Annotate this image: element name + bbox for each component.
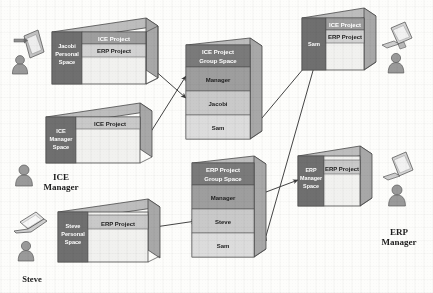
ice-manager-side-line-2: Manager: [49, 136, 73, 142]
label-erp-manager-line-2: Manager: [382, 237, 417, 247]
box-sam-personal-space[interactable]: Sam ICE Project ERP Project: [302, 8, 376, 70]
diagram-canvas: Jacobi Personal Space ICE Project ERP Pr…: [0, 0, 433, 293]
ice-manager-side-line-1: ICE: [56, 128, 66, 134]
box-ice-project-group-space[interactable]: ICE Project Group Space Manager Jacobi S…: [186, 38, 262, 139]
laptop-icon: [14, 212, 47, 233]
diagram-svg: Jacobi Personal Space ICE Project ERP Pr…: [0, 0, 433, 293]
desktop-computer-icon: [382, 22, 412, 49]
connector-steve-to-erp-group: [155, 221, 196, 227]
box-steve-personal-space[interactable]: Steve Personal Space ERP Project: [58, 199, 160, 262]
person-icon: [388, 53, 404, 73]
actor-sam[interactable]: [382, 22, 412, 73]
person-icon: [16, 165, 33, 186]
person-icon: [389, 185, 406, 206]
actor-ice-manager[interactable]: [16, 165, 33, 186]
label-ice-manager-line-1: ICE: [53, 172, 69, 182]
person-icon: [18, 241, 34, 261]
erp-group-member-manager: Manager: [211, 195, 236, 201]
connector-erp-group-to-sam: [266, 60, 316, 236]
sam-side-label: Sam: [308, 41, 320, 47]
sam-band-erp-project: ERP Project: [328, 34, 362, 40]
jacobi-band-ice-project: ICE Project: [98, 36, 130, 42]
erp-group-header-line-2: Group Space: [204, 176, 242, 182]
steve-side-line-1: Steve: [66, 223, 81, 229]
steve-band-erp-project: ERP Project: [101, 221, 135, 227]
sam-band-ice-project: ICE Project: [329, 22, 361, 28]
jacobi-side-line-1: Jacobi: [58, 43, 76, 49]
steve-side-line-3: Space: [65, 239, 81, 245]
actor-steve[interactable]: [14, 212, 47, 261]
erp-manager-side-line-3: Space: [303, 183, 319, 189]
erp-group-header-line-1: ERP Project: [206, 167, 240, 173]
ice-group-member-jacobi: Jacobi: [208, 101, 227, 107]
tablet-icon: [14, 30, 44, 58]
jacobi-band-erp-project: ERP Project: [97, 48, 131, 54]
actor-erp-manager[interactable]: [383, 152, 413, 206]
desktop-computer-icon: [383, 152, 413, 180]
ice-group-member-manager: Manager: [206, 77, 231, 83]
box-jacobi-personal-space[interactable]: Jacobi Personal Space ICE Project ERP Pr…: [52, 18, 158, 84]
connector-icemgr-to-ice-group: [152, 76, 186, 130]
label-ice-manager-line-2: Manager: [44, 182, 79, 192]
box-erp-manager-space[interactable]: ERP Manager Space ERP Project: [298, 146, 372, 206]
label-erp-manager-line-1: ERP: [390, 227, 409, 237]
erp-manager-side-line-2: Manager: [300, 175, 323, 181]
box-ice-manager-space[interactable]: ICE Manager Space ICE Project: [46, 103, 152, 163]
ice-manager-band-ice-project: ICE Project: [94, 121, 126, 127]
person-icon: [12, 56, 27, 74]
connector-erp-group-to-erpmgr: [266, 180, 298, 192]
box-erp-project-group-space[interactable]: ERP Project Group Space Manager Steve Sa…: [192, 156, 266, 257]
jacobi-side-line-2: Personal: [55, 51, 79, 57]
ice-manager-side-line-3: Space: [53, 144, 69, 150]
ice-group-header-line-2: Group Space: [199, 58, 237, 64]
ice-group-member-sam: Sam: [212, 125, 225, 131]
erp-manager-band-erp-project: ERP Project: [325, 166, 359, 172]
erp-group-member-sam: Sam: [217, 243, 230, 249]
erp-group-member-steve: Steve: [215, 219, 232, 225]
label-steve: Steve: [22, 274, 42, 284]
erp-manager-side-line-1: ERP: [305, 167, 316, 173]
jacobi-side-line-3: Space: [59, 59, 75, 65]
actor-jacobi[interactable]: [12, 30, 44, 74]
ice-group-header-line-1: ICE Project: [202, 49, 234, 55]
steve-side-line-2: Personal: [61, 231, 85, 237]
